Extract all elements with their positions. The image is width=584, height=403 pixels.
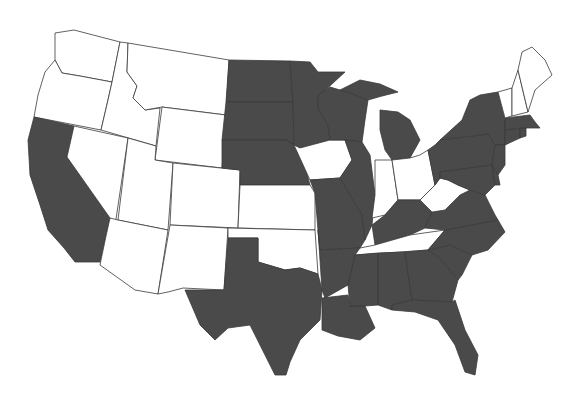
state-ks — [238, 185, 315, 230]
state-sd — [222, 102, 294, 145]
us-choropleth-map — [0, 0, 584, 403]
state-co — [170, 163, 240, 228]
state-fl — [392, 300, 478, 375]
state-ma — [505, 115, 540, 130]
state-mt — [127, 43, 229, 115]
state-nd — [226, 60, 293, 102]
state-mi — [380, 110, 420, 160]
state-wy — [155, 107, 226, 168]
state-az — [100, 218, 168, 294]
state-ct — [505, 128, 520, 145]
state-nm — [158, 225, 228, 294]
state-ri — [520, 128, 526, 138]
states-layer — [28, 30, 552, 375]
